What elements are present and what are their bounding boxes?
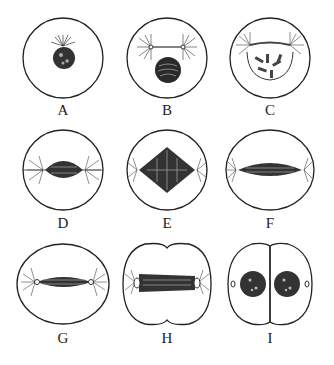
- stage-f: F: [220, 120, 320, 230]
- stage-d: D: [13, 120, 113, 230]
- aster-icon: [290, 32, 304, 54]
- stage-a: A: [13, 10, 113, 120]
- aster-icon: [51, 35, 75, 46]
- aster-icon: [236, 32, 250, 54]
- stage-label: D: [13, 215, 113, 232]
- cell-e-drawing: [117, 120, 217, 220]
- aster-icon: [93, 268, 107, 296]
- stage-h: H: [117, 238, 217, 348]
- nucleus-icon: [274, 271, 300, 297]
- spindle-icon: [139, 274, 195, 292]
- aster-icon: [85, 156, 101, 184]
- aster-icon: [21, 268, 35, 296]
- nucleus-icon: [53, 47, 75, 69]
- stage-label: F: [220, 215, 320, 232]
- cell-a-drawing: [13, 10, 113, 110]
- stage-e: E: [117, 120, 217, 230]
- centriole-icon: [231, 281, 235, 287]
- spindle-icon: [45, 161, 83, 178]
- stage-label: A: [13, 102, 113, 119]
- nucleus-icon: [155, 57, 181, 83]
- cell-f-drawing: [220, 120, 320, 220]
- cell-h-drawing: [117, 238, 217, 338]
- stage-i: I: [220, 238, 320, 348]
- stage-label: E: [117, 215, 217, 232]
- nucleus-icon: [240, 271, 266, 297]
- spindle-icon: [37, 277, 91, 287]
- aster-icon: [27, 156, 43, 184]
- stage-label: H: [117, 330, 217, 347]
- stage-label: G: [13, 330, 113, 347]
- centriole-icon: [305, 281, 309, 287]
- cell-b-drawing: [117, 10, 217, 110]
- stage-b: B: [117, 10, 217, 120]
- stage-label: C: [220, 102, 320, 119]
- stage-c: C: [220, 10, 320, 120]
- aster-icon: [304, 158, 312, 182]
- stage-label: B: [117, 102, 217, 119]
- aster-icon: [125, 270, 135, 294]
- cell-c-drawing: [220, 10, 320, 110]
- spindle-icon: [238, 163, 302, 176]
- cell-d-drawing: [13, 120, 113, 220]
- cell-g-drawing: [13, 238, 113, 338]
- stage-g: G: [13, 238, 113, 348]
- cell-i-drawing: [220, 238, 320, 338]
- stage-label: I: [220, 330, 320, 347]
- aster-icon: [199, 270, 209, 294]
- chromosome-icon: [255, 54, 283, 78]
